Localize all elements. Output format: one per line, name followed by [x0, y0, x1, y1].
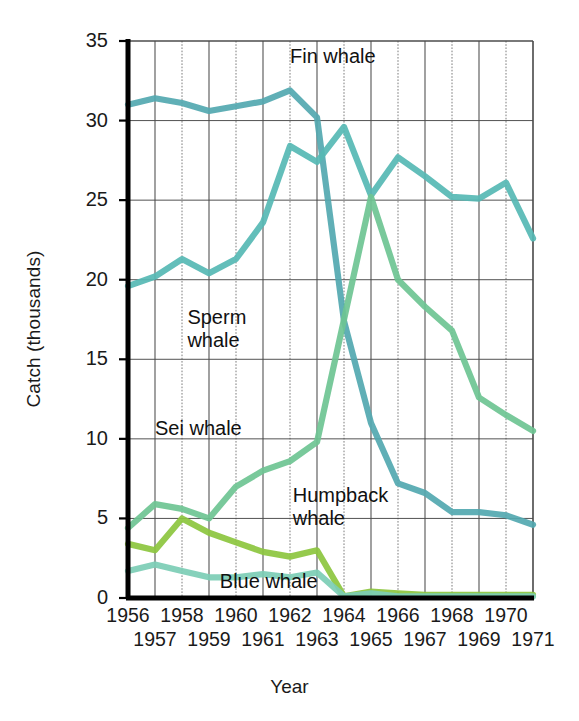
- x-axis-title: Year: [0, 676, 579, 698]
- y-axis-title: Catch (thousands): [23, 209, 45, 449]
- series-annotation: Blue whale: [220, 570, 318, 593]
- x-tick-label: 1967: [399, 629, 451, 650]
- x-tick-label: 1966: [372, 605, 424, 626]
- x-tick-label: 1956: [102, 605, 154, 626]
- series-annotation: Fin whale: [290, 45, 376, 68]
- x-tick-label: 1959: [183, 629, 235, 650]
- x-tick-label: 1958: [156, 605, 208, 626]
- x-tick-label: 1964: [318, 605, 370, 626]
- series-annotation: Sei whale: [155, 417, 242, 440]
- series-line-sei-whale: [128, 197, 533, 528]
- y-tick-label: 20: [60, 269, 108, 289]
- y-tick-label: 35: [60, 30, 108, 50]
- x-tick-label: 1971: [507, 629, 559, 650]
- x-tick-label: 1957: [129, 629, 181, 650]
- y-tick-label: 0: [60, 587, 108, 607]
- x-tick-label: 1960: [210, 605, 262, 626]
- x-tick-label: 1968: [426, 605, 478, 626]
- series-annotation: Spermwhale: [187, 306, 246, 352]
- y-tick-label: 5: [60, 507, 108, 527]
- x-tick-label: 1963: [291, 629, 343, 650]
- x-tick-label: 1970: [480, 605, 532, 626]
- y-tick-label: 30: [60, 110, 108, 130]
- x-tick-label: 1962: [264, 605, 316, 626]
- x-tick-label: 1965: [345, 629, 397, 650]
- x-tick-label: 1969: [453, 629, 505, 650]
- series-annotation: Humpbackwhale: [293, 484, 389, 530]
- y-tick-label: 10: [60, 428, 108, 448]
- x-tick-label: 1961: [237, 629, 289, 650]
- whale-catch-chart: Catch (thousands) Year 35302520151050 19…: [0, 0, 579, 721]
- y-tick-label: 15: [60, 348, 108, 368]
- y-tick-label: 25: [60, 189, 108, 209]
